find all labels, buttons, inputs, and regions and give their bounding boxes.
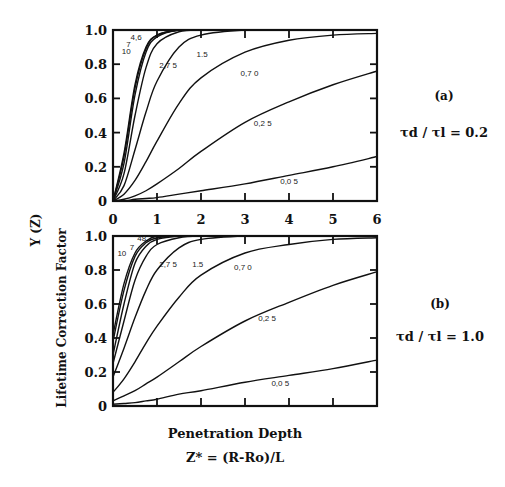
y-tick-label: 0.6 — [84, 297, 107, 312]
curve-label: 7 — [130, 243, 135, 252]
y-tick-label: 0.8 — [84, 57, 107, 72]
y-tick-label: 0.2 — [84, 365, 107, 380]
curve-10 — [113, 30, 377, 201]
chart-panel-b: 00.20.40.60.81.0107482,7 51.50,7 00,2 50… — [84, 229, 377, 414]
x-tick-label: 0 — [108, 212, 117, 227]
panel-b-tag: (b) — [430, 297, 450, 311]
curve-label: 0,7 0 — [241, 69, 259, 78]
curve-label: 1.5 — [197, 50, 209, 59]
y-tick-label: 0 — [98, 399, 107, 414]
y-tick-label: 0 — [98, 194, 107, 209]
x-tick-label: 5 — [328, 212, 337, 227]
curve-label: 1.5 — [192, 260, 204, 269]
x-tick-label: 2 — [196, 212, 205, 227]
panel-a-tag: (a) — [434, 89, 453, 103]
y-axis-symbol: Y (Z) — [29, 214, 43, 248]
curve-0-05 — [113, 360, 377, 404]
curve-label: 0,2 5 — [258, 314, 276, 323]
y-tick-label: 0.6 — [84, 91, 107, 106]
panel-a-ratio: τd / τl = 0.2 — [400, 125, 488, 140]
curve-label: 0,2 5 — [254, 119, 272, 128]
x-tick-label: 6 — [372, 212, 381, 227]
panel-b-ratio: τd / τl = 1.0 — [396, 329, 484, 344]
curve-7 — [113, 236, 377, 341]
y-tick-label: 0.8 — [84, 263, 107, 278]
plot-frame — [113, 30, 377, 201]
curve-2-75 — [113, 30, 377, 201]
curve-2-75 — [113, 236, 377, 364]
figure: 012345600.20.40.60.81.01074,62,7 51.50,7… — [0, 0, 505, 487]
curve-0-70 — [113, 33, 377, 201]
curve-label: 0,0 5 — [271, 379, 289, 388]
x-tick-label: 4 — [284, 212, 293, 227]
curve-10 — [113, 236, 377, 335]
y-tick-label: 0.4 — [84, 126, 107, 141]
curve-label: 10 — [117, 249, 126, 258]
curve-1-5 — [113, 236, 377, 377]
y-tick-label: 0.2 — [84, 160, 107, 175]
y-tick-label: 1.0 — [84, 23, 107, 38]
chart-panel-a: 012345600.20.40.60.81.01074,62,7 51.50,7… — [84, 23, 381, 227]
curve-1-5 — [113, 30, 377, 201]
y-axis-label: Lifetime Correction Factor — [55, 228, 69, 408]
x-tick-label: 1 — [152, 212, 161, 227]
x-axis-formula: Z* = (R-Ro)/L — [186, 450, 284, 465]
y-tick-label: 0.4 — [84, 331, 107, 346]
x-tick-label: 3 — [240, 212, 249, 227]
curve-label: 0,7 0 — [234, 263, 252, 272]
curve-4-6 — [113, 30, 377, 201]
curve-4-6 — [113, 236, 377, 355]
x-axis-label: Penetration Depth — [168, 426, 303, 441]
curve-0-70 — [113, 238, 377, 393]
y-tick-label: 1.0 — [84, 229, 107, 244]
curve-label: 48 — [137, 234, 146, 243]
curve-label: 0,0 5 — [280, 177, 298, 186]
curve-7 — [113, 30, 377, 201]
curve-label: 4,6 — [131, 33, 143, 42]
